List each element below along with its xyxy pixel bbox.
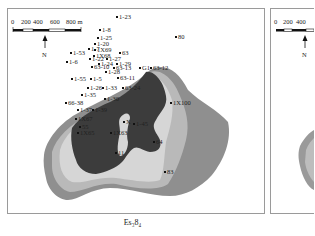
- well-point-icon: [79, 126, 81, 128]
- well-point-icon: [87, 87, 89, 89]
- scale-label-0: 0: [274, 18, 277, 25]
- well-label: 1-39: [95, 106, 107, 113]
- well-point-icon: [70, 52, 72, 54]
- well-point-icon: [97, 37, 99, 39]
- scale-label-400: 400: [296, 18, 306, 25]
- well-point-icon: [102, 87, 104, 89]
- well-point-icon: [81, 94, 83, 96]
- north-arrow-icon: [303, 35, 308, 41]
- well-point-icon: [104, 98, 106, 100]
- well-label: 1-35: [84, 91, 96, 98]
- well-label: 1-55: [74, 75, 86, 82]
- well-label: 1-53: [73, 49, 85, 56]
- well-label: 1-33: [105, 84, 117, 91]
- well-point-icon: [88, 48, 90, 50]
- left-scale-bar: 0 200 400 600 800 m: [11, 18, 82, 32]
- well-point-icon: [66, 61, 68, 63]
- right-map-zones: [299, 130, 315, 190]
- well-label: 1-28: [108, 68, 120, 75]
- well-point-icon: [92, 109, 94, 111]
- well-label: 63-10: [94, 63, 109, 70]
- well-label: 1-6: [69, 58, 78, 65]
- well-label: 66-38: [68, 99, 83, 106]
- well-point-icon: [77, 109, 79, 111]
- scale-label-400: 400: [33, 18, 43, 25]
- scale-label-800m: 800 m: [66, 18, 82, 25]
- scale-label-0: 0: [11, 18, 14, 25]
- well-point-icon: [139, 67, 141, 69]
- left-north-arrow: N: [42, 35, 48, 58]
- right-scale-bar: 0 200 400: [274, 18, 314, 32]
- well-point-icon: [153, 141, 155, 143]
- scale-label-600: 600: [50, 18, 60, 25]
- figure-caption: Es₃8₄: [0, 218, 265, 227]
- well-label: 1X65: [80, 129, 94, 136]
- well-point-icon: [105, 71, 107, 73]
- well-point-icon: [164, 171, 166, 173]
- well-point-icon: [75, 118, 77, 120]
- well-label: 63-12: [153, 64, 168, 71]
- well-point-icon: [117, 77, 119, 79]
- well-label: 63: [122, 49, 129, 56]
- well-point-icon: [123, 121, 125, 123]
- well-point-icon: [110, 132, 112, 134]
- well-label: 11: [118, 149, 124, 156]
- well-point-icon: [90, 78, 92, 80]
- well-label: 1X100: [173, 99, 191, 106]
- well-label: G1: [142, 64, 150, 71]
- well-label: 83: [167, 168, 174, 175]
- well-label: 1-26: [90, 84, 103, 91]
- well-point-icon: [170, 102, 172, 104]
- well-point-icon: [115, 152, 117, 154]
- right-north-arrow: N: [302, 35, 308, 58]
- map-canvas: 0 200 400 600 800 m N 0 200 400 N 1-231-…: [0, 0, 314, 236]
- well-point-icon: [99, 29, 101, 31]
- well-label: 63-24: [125, 84, 141, 91]
- well-point-icon: [116, 16, 118, 18]
- well-label: 1-45: [136, 120, 148, 127]
- well-point-icon: [133, 123, 135, 125]
- well-label: 1-23: [119, 13, 131, 20]
- well-label: 1-8: [102, 26, 111, 33]
- well-label: 1-30: [107, 95, 119, 102]
- well-point-icon: [150, 67, 152, 69]
- well-point-icon: [71, 78, 73, 80]
- well-label: 64: [156, 138, 163, 145]
- well-point-icon: [65, 102, 67, 104]
- well-point-icon: [122, 87, 124, 89]
- well-point-icon: [119, 52, 121, 54]
- well-point-icon: [89, 58, 91, 60]
- well-point-icon: [94, 49, 96, 51]
- well-label: X: [126, 118, 131, 125]
- scale-label-200: 200: [21, 18, 31, 25]
- well-label: 80: [178, 33, 185, 40]
- well-label: 1-37: [80, 106, 93, 113]
- well-label: 1X63: [113, 129, 127, 136]
- north-label: N: [302, 51, 307, 58]
- well-label: 1-5: [93, 75, 102, 82]
- well-label: 63-11: [120, 74, 135, 81]
- north-arrow-icon: [43, 35, 48, 41]
- north-label: N: [42, 51, 47, 58]
- scale-label-200: 200: [283, 18, 293, 25]
- well-point-icon: [91, 66, 93, 68]
- well-point-icon: [77, 132, 79, 134]
- well-point-icon: [175, 36, 177, 38]
- well-label: 1X67: [78, 115, 93, 122]
